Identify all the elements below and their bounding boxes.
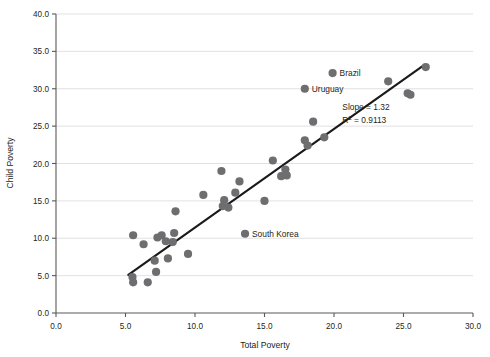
x-tick-label: 10.0 (187, 322, 203, 331)
data-point (220, 196, 228, 204)
data-point (169, 238, 177, 246)
data-point (139, 240, 147, 248)
data-point (151, 257, 159, 265)
data-point (269, 156, 277, 164)
data-point (303, 141, 311, 149)
data-point (422, 63, 430, 71)
data-points-group (128, 63, 429, 286)
data-point (199, 191, 207, 199)
data-point (164, 254, 172, 262)
y-tick-label: 25.0 (33, 122, 49, 131)
x-tick-label: 20.0 (326, 322, 342, 331)
y-tick-label: 5.0 (38, 272, 50, 281)
data-point (320, 133, 328, 141)
y-tick-label: 40.0 (33, 10, 49, 19)
data-point (406, 91, 414, 99)
y-tick-label: 0.0 (38, 309, 50, 318)
x-tick-label: 0.0 (50, 322, 62, 331)
point-label: Uruguay (312, 84, 344, 94)
point-label: South Korea (252, 229, 299, 239)
data-point (129, 278, 137, 286)
y-tick-label: 20.0 (33, 160, 49, 169)
y-tick-label: 30.0 (33, 85, 49, 94)
x-tick-label: 25.0 (396, 322, 412, 331)
data-point (283, 171, 291, 179)
x-tick-label: 15.0 (257, 322, 273, 331)
annotations-group: BrazilUruguaySouth KoreaSlope = 1.32R2 =… (252, 68, 390, 239)
y-tick-label: 10.0 (33, 234, 49, 243)
data-point (241, 230, 249, 238)
data-point (260, 197, 268, 205)
data-point (129, 231, 137, 239)
data-point (162, 237, 170, 245)
data-point (171, 207, 179, 215)
data-point (301, 85, 309, 93)
y-tick-label: 35.0 (33, 47, 49, 56)
data-point (170, 229, 178, 237)
chart-canvas: 0.05.010.015.020.025.030.035.040.00.05.0… (0, 0, 490, 357)
data-point (217, 167, 225, 175)
data-point (231, 189, 239, 197)
y-tick-label: 15.0 (33, 197, 49, 206)
data-point (309, 118, 317, 126)
slope-annotation: Slope = 1.32 (342, 102, 390, 112)
tick-labels-group: 0.05.010.015.020.025.030.035.040.00.05.0… (33, 10, 481, 331)
y-axis-title: Child Poverty (5, 137, 15, 189)
x-tick-label: 30.0 (465, 322, 481, 331)
data-point (152, 268, 160, 276)
data-point (329, 69, 337, 77)
x-tick-label: 5.0 (120, 322, 132, 331)
data-point (184, 250, 192, 258)
r-squared-annotation: R2 = 0.9113 (342, 115, 386, 125)
scatter-chart: 0.05.010.015.020.025.030.035.040.00.05.0… (0, 0, 490, 357)
x-axis-title: Total Poverty (240, 340, 290, 350)
data-point (235, 177, 243, 185)
data-point (224, 204, 232, 212)
point-label: Brazil (340, 68, 361, 78)
data-point (384, 77, 392, 85)
data-point (144, 278, 152, 286)
